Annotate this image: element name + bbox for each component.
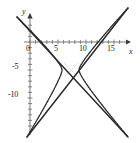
y-axis-label: y	[22, 8, 26, 16]
x-tick-label-5: 5	[54, 45, 58, 53]
x-tick-label-10: 10	[79, 45, 87, 53]
y-tick-label-minus5: -5	[12, 63, 18, 71]
x-axis-label: x	[129, 48, 133, 56]
y-tick-label-minus10: -10	[8, 91, 18, 99]
x-tick-label-15: 15	[107, 45, 115, 53]
x-tick-label-0: 0	[26, 45, 30, 53]
hyperbola-figure: x y 0 5 10 15 -5 -10	[0, 0, 140, 143]
hyperbola-left-branch	[17, 17, 62, 137]
plot-canvas	[0, 0, 140, 143]
hyperbola-right-branch	[79, 8, 128, 137]
